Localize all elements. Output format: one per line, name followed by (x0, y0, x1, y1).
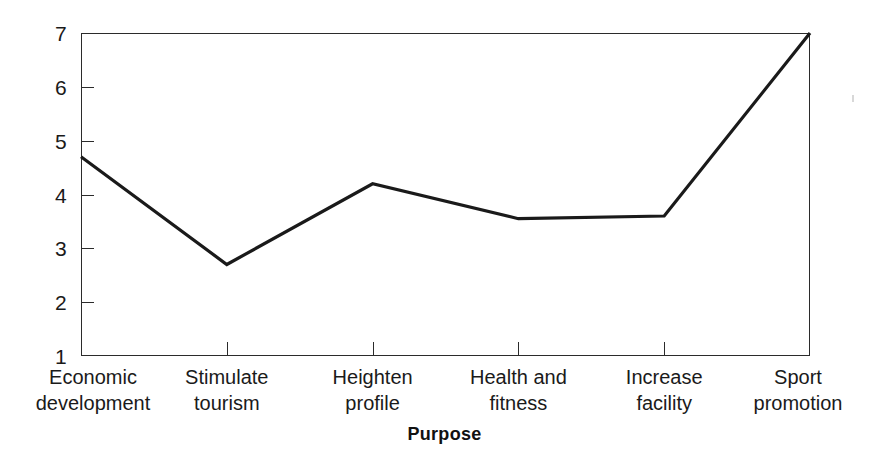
scan-artifact-speck (852, 95, 854, 102)
x-axis-title: Purpose (0, 424, 889, 445)
line-chart: 1234567 Economic developmentStimulate to… (0, 0, 889, 473)
x-tick-label-5: Sport promotion (723, 364, 873, 416)
x-tick-label-4: Increase facility (589, 364, 739, 416)
x-tick-label-1: Stimulate tourism (152, 364, 302, 416)
x-tick-label-3: Health and fitness (443, 364, 593, 416)
x-tick-label-2: Heighten profile (298, 364, 448, 416)
x-tick-label-0: Economic development (18, 364, 168, 416)
x-axis-tick-labels: Economic developmentStimulate tourismHei… (0, 364, 889, 426)
series-polyline (81, 33, 810, 264)
